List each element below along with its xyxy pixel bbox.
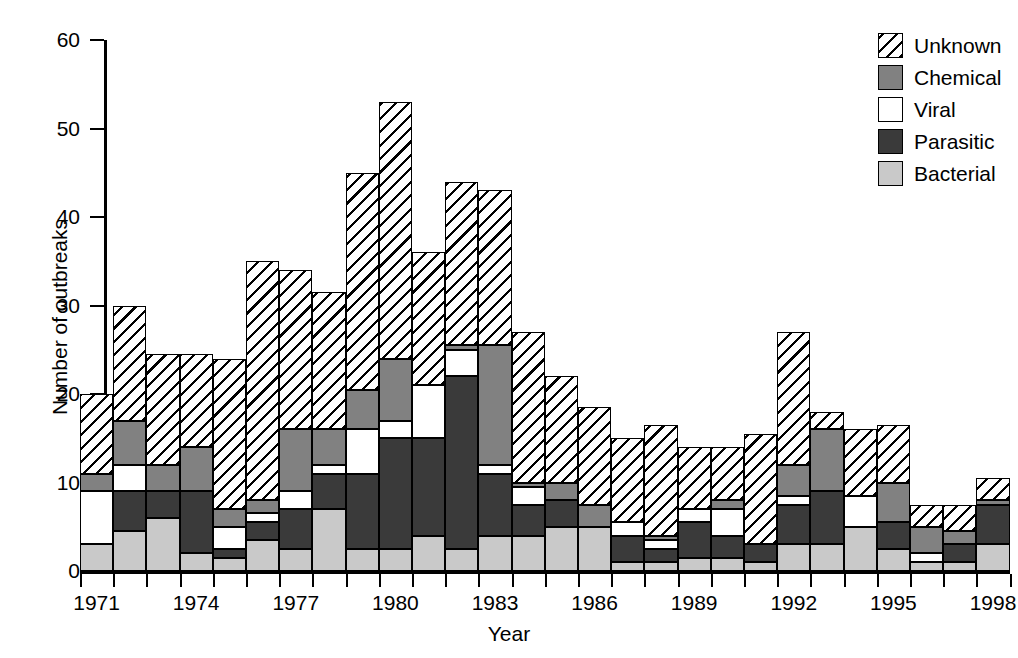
bar-segment-unknown [80, 394, 113, 474]
bar-segment-chemical [777, 465, 810, 496]
bar-1971[interactable] [80, 394, 113, 571]
bar-segment-chemical [578, 505, 611, 527]
bar-1995[interactable] [877, 425, 910, 571]
bar-segment-parasitic [744, 544, 777, 562]
bar-1987[interactable] [611, 438, 644, 571]
bar-segment-chemical [877, 483, 910, 523]
bar-segment-bacterial [711, 558, 744, 571]
legend-item-viral[interactable]: Viral [878, 94, 1018, 124]
bar-segment-chemical [810, 429, 843, 491]
x-tick-mark [246, 574, 248, 587]
bar-segment-parasitic [279, 509, 312, 549]
chart-legend: UnknownChemicalViralParasiticBacterial [878, 30, 1018, 190]
bar-1978[interactable] [312, 292, 345, 571]
bar-segment-chemical [346, 390, 379, 430]
bar-1981[interactable] [412, 252, 445, 571]
bar-segment-chemical [910, 527, 943, 554]
bar-segment-unknown [810, 412, 843, 430]
legend-item-bacterial[interactable]: Bacterial [878, 158, 1018, 188]
bar-segment-chemical [213, 509, 246, 527]
plot-area [0, 0, 1018, 658]
x-tick-mark [711, 574, 713, 587]
bar-segment-viral [312, 465, 345, 474]
x-tick-mark [379, 574, 381, 587]
bar-1972[interactable] [113, 306, 146, 572]
x-tick-mark [976, 574, 978, 587]
x-tick-mark [943, 574, 945, 587]
bar-1974[interactable] [180, 354, 213, 571]
bar-1997[interactable] [943, 505, 976, 571]
bar-segment-viral [478, 465, 511, 474]
bar-segment-unknown [578, 407, 611, 504]
bar-1984[interactable] [512, 332, 545, 571]
x-tick-label-1983: 1983 [472, 591, 519, 615]
bar-segment-chemical [246, 500, 279, 513]
x-tick-mark [1010, 574, 1012, 587]
bar-1988[interactable] [644, 425, 677, 571]
x-tick-label-1998: 1998 [970, 591, 1017, 615]
x-tick-label-1977: 1977 [272, 591, 319, 615]
bar-segment-bacterial [877, 549, 910, 571]
bar-1985[interactable] [545, 376, 578, 571]
legend-item-unknown[interactable]: Unknown [878, 30, 1018, 60]
bar-1982[interactable] [445, 182, 478, 571]
bar-segment-chemical [711, 500, 744, 509]
bar-1977[interactable] [279, 270, 312, 571]
bar-segment-parasitic [711, 536, 744, 558]
bar-1975[interactable] [213, 359, 246, 571]
bar-segment-parasitic [877, 522, 910, 549]
bar-segment-viral [80, 491, 113, 544]
bar-1979[interactable] [346, 173, 379, 571]
bar-1989[interactable] [678, 447, 711, 571]
bar-segment-unknown [744, 434, 777, 545]
bar-segment-viral [678, 509, 711, 522]
bar-segment-bacterial [113, 531, 146, 571]
bar-1994[interactable] [844, 429, 877, 571]
bar-1996[interactable] [910, 505, 943, 571]
bar-1976[interactable] [246, 261, 279, 571]
bar-segment-unknown [777, 332, 810, 465]
bar-1986[interactable] [578, 376, 611, 571]
bar-segment-parasitic [810, 491, 843, 544]
unknown-swatch [878, 33, 903, 58]
bar-segment-unknown [943, 505, 976, 532]
x-tick-mark [810, 574, 812, 587]
legend-label: Parasitic [914, 131, 995, 152]
bar-segment-bacterial [312, 509, 345, 571]
bar-1992[interactable] [777, 332, 810, 571]
x-tick-mark [80, 574, 82, 587]
bar-segment-parasitic [976, 505, 1009, 545]
bar-segment-bacterial [279, 549, 312, 571]
bar-segment-chemical [512, 483, 545, 487]
chart-figure: 0102030405060 Number of outbreaks 197119… [0, 0, 1018, 658]
bar-segment-bacterial [512, 536, 545, 571]
bar-segment-parasitic [512, 505, 545, 536]
bar-segment-parasitic [943, 544, 976, 562]
bar-1983[interactable] [478, 190, 511, 571]
legend-label: Chemical [914, 67, 1002, 88]
bar-1990[interactable] [711, 447, 744, 571]
x-tick-label-1995: 1995 [870, 591, 917, 615]
bar-segment-parasitic [113, 491, 146, 531]
bar-1980[interactable] [379, 102, 412, 571]
bar-segment-unknown [910, 505, 943, 527]
bar-1993[interactable] [810, 412, 843, 571]
bar-segment-viral [113, 465, 146, 492]
legend-item-chemical[interactable]: Chemical [878, 62, 1018, 92]
bar-1973[interactable] [146, 354, 179, 571]
bar-segment-parasitic [146, 491, 179, 518]
legend-item-parasitic[interactable]: Parasitic [878, 126, 1018, 156]
x-tick-mark [545, 574, 547, 587]
x-tick-label-1986: 1986 [571, 591, 618, 615]
x-tick-mark [777, 574, 779, 587]
bar-segment-bacterial [943, 562, 976, 571]
bar-segment-unknown [976, 478, 1009, 500]
bar-1998[interactable] [976, 478, 1009, 571]
bar-1991[interactable] [744, 434, 777, 571]
bar-segment-bacterial [379, 549, 412, 571]
x-tick-mark [113, 574, 115, 587]
bar-segment-unknown [877, 425, 910, 483]
x-tick-label-1974: 1974 [173, 591, 220, 615]
bar-segment-parasitic [777, 505, 810, 545]
x-tick-mark [412, 574, 414, 587]
